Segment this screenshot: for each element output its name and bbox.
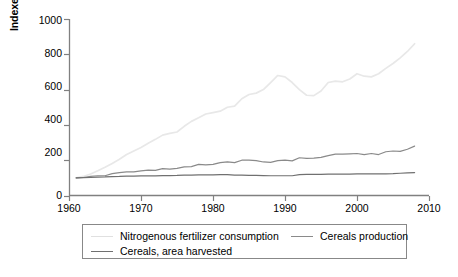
y-axis-ticks bbox=[64, 20, 69, 197]
series-line-nitrogenous-fertilizer-consumption bbox=[76, 44, 414, 178]
series-line-cereals-production bbox=[76, 146, 414, 178]
x-axis-ticks bbox=[70, 196, 430, 201]
legend-entry-cereals-area-harvested: Cereals, area harvested bbox=[91, 244, 232, 258]
chart-figure: Indexed 1961=100 1000 800 600 400 200 0 … bbox=[0, 0, 458, 277]
legend-entry-cereals-production: Cereals production bbox=[291, 229, 408, 243]
series-line-cereals-area-harvested bbox=[76, 173, 414, 178]
chart-legend: Nitrogenous fertilizer consumption Cerea… bbox=[82, 224, 407, 259]
legend-entry-nitrogenous-fertilizer-consumption: Nitrogenous fertilizer consumption bbox=[91, 229, 279, 243]
legend-swatch-icon-cereals-production bbox=[291, 236, 313, 237]
legend-label-nitrogenous-fertilizer-consumption: Nitrogenous fertilizer consumption bbox=[120, 230, 279, 242]
data-series bbox=[76, 44, 414, 178]
legend-swatch-icon-nitrogenous-fertilizer-consumption bbox=[91, 236, 113, 237]
legend-label-cereals-production: Cereals production bbox=[320, 230, 408, 242]
legend-swatch-icon-cereals-area-harvested bbox=[91, 251, 113, 252]
legend-label-cereals-area-harvested: Cereals, area harvested bbox=[120, 245, 232, 257]
